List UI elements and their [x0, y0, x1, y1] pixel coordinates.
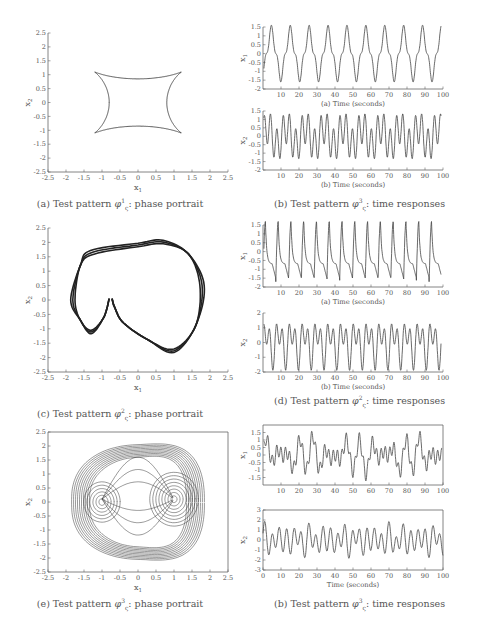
signal-line [264, 222, 441, 282]
tick-label: 80 [403, 289, 411, 297]
tick-label: 1 [172, 174, 176, 182]
tick-label: 20 [295, 91, 303, 99]
tick-label: -1.5 [33, 540, 46, 548]
tick-label: -2 [255, 556, 261, 564]
caption-b: (b) Test pattern φ3ς: time responses [240, 197, 479, 211]
tick-label: 60 [367, 487, 375, 495]
time-response-d-plot: 1020304050607080901001.510.50-0.5-1-1.5-… [240, 215, 479, 415]
tick-label: -1 [255, 546, 261, 554]
tick-label: 20 [295, 572, 303, 580]
tick-label: 0 [136, 174, 140, 182]
tick-label: -1.5 [78, 374, 91, 382]
tick-label: 30 [313, 374, 321, 382]
tick-label: 1.5 [251, 221, 261, 229]
tick-label: 1.5 [187, 574, 197, 582]
tick-label: 70 [385, 289, 393, 297]
tick-label: 60 [367, 374, 375, 382]
tick-label: 10 [277, 289, 285, 297]
tick-label: 2 [257, 516, 261, 524]
tick-label: 30 [313, 91, 321, 99]
tick-label: -0.5 [114, 574, 127, 582]
caption-f: (b) Test pattern φ3ς: time responses [240, 597, 479, 611]
tick-label: 30 [313, 487, 321, 495]
tick-label: 50 [349, 572, 357, 580]
tick-label: 60 [367, 289, 375, 297]
phase-portrait-c: -2.5-2-1.5-1-0.500.511.522.52.521.510.50… [0, 215, 240, 415]
tick-label: 80 [403, 572, 411, 580]
tick-label: 100 [437, 172, 449, 180]
tick-label: 90 [421, 572, 429, 580]
time-response-d: 1020304050607080901001.510.50-0.5-1-1.5-… [240, 215, 479, 415]
tick-label: 2.5 [36, 224, 46, 232]
signal-line [263, 521, 443, 558]
tick-label: -2.5 [33, 568, 46, 576]
svg-text:x2: x2 [23, 498, 33, 506]
tick-label: 0 [257, 50, 261, 58]
tick-label: 60 [367, 91, 375, 99]
tick-label: -1 [99, 574, 105, 582]
x-axis-label: (b) Time (seconds) [321, 181, 385, 189]
x-axis-label: (b) Time (seconds) [321, 383, 385, 391]
tick-label: 80 [403, 374, 411, 382]
tick-label: 20 [295, 487, 303, 495]
tick-label: -1 [255, 67, 261, 75]
axes: -2.5-2-1.5-1-0.500.511.522.52.521.510.50… [33, 29, 233, 182]
axes: 01020304050607080901003210-1-2-3 [255, 506, 450, 580]
tick-label: 90 [421, 289, 429, 297]
tick-label: 80 [403, 91, 411, 99]
tick-label: -3 [255, 566, 261, 574]
tick-label: 90 [421, 487, 429, 495]
tick-label: -0.5 [114, 374, 127, 382]
tick-label: 10 [277, 572, 285, 580]
tick-label: 2.5 [36, 29, 46, 37]
caption-c: (c) Test pattern φ2ς: phase portrait [0, 407, 240, 421]
tick-label: 10 [277, 172, 285, 180]
axis-label: x2 [23, 296, 33, 304]
tick-label: 40 [331, 572, 339, 580]
tick-label: 50 [349, 91, 357, 99]
tick-label: 30 [313, 172, 321, 180]
tick-label: 0.5 [36, 85, 46, 93]
tick-label: 20 [295, 374, 303, 382]
tick-label: 2.5 [223, 174, 233, 182]
tick-label: -2 [63, 174, 69, 182]
svg-text:x2: x2 [240, 338, 248, 346]
svg-text:x1: x1 [134, 583, 142, 593]
caption-e: (e) Test pattern φ3ς: phase portrait [0, 597, 240, 611]
tick-label: 50 [349, 374, 357, 382]
axis-label: x1 [134, 383, 142, 393]
svg-text:x2: x2 [23, 98, 33, 106]
tick-label: 20 [295, 289, 303, 297]
time-response-b: 1020304050607080901001.510.50-0.5-1-1.5-… [240, 0, 479, 200]
axis-label: x2 [240, 536, 248, 544]
x-axis-label: (a) Time (seconds) [321, 298, 385, 306]
tick-label: 0 [261, 572, 265, 580]
tick-label: 50 [349, 172, 357, 180]
tick-label: -1.5 [33, 140, 46, 148]
tick-label: 1 [257, 32, 261, 40]
tick-label: -2.5 [33, 168, 46, 176]
tick-label: 90 [421, 172, 429, 180]
tick-label: 0.5 [151, 574, 161, 582]
tick-label: -1.5 [248, 76, 261, 84]
tick-label: 0 [42, 498, 46, 506]
tick-label: 1.5 [187, 174, 197, 182]
tick-label: 60 [367, 172, 375, 180]
x-axis-label: Time (seconds) [327, 581, 380, 589]
tick-label: 2.5 [36, 428, 46, 436]
tick-label: 2 [42, 239, 46, 247]
tick-label: 2 [208, 174, 212, 182]
tick-label: 2 [42, 442, 46, 450]
signal-line [264, 25, 441, 82]
phase-portrait-a-plot: -2.5-2-1.5-1-0.500.511.522.52.521.510.50… [0, 0, 240, 200]
tick-label: -1 [99, 174, 105, 182]
tick-label: 90 [421, 91, 429, 99]
tick-label: 100 [437, 374, 449, 382]
tick-label: 100 [437, 572, 449, 580]
tick-label: -0.5 [248, 257, 261, 265]
axis-label: x1 [240, 252, 248, 260]
tick-label: -1 [255, 353, 261, 361]
trajectory [71, 240, 205, 353]
tick-label: 100 [437, 91, 449, 99]
tick-label: -1.5 [248, 274, 261, 282]
